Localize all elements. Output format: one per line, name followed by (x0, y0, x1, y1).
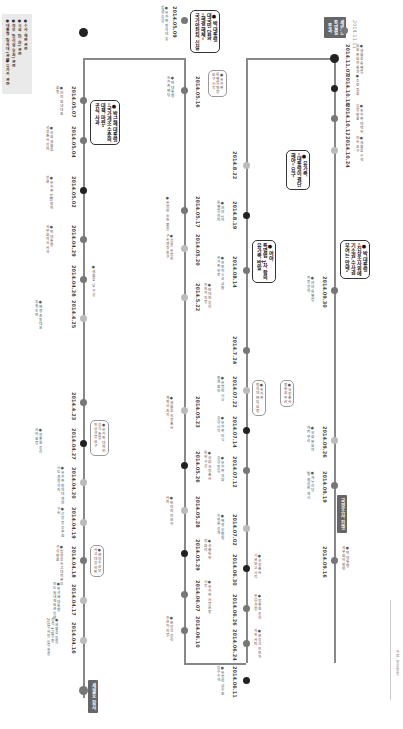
timeline-dot (243, 605, 250, 612)
timeline-dot (80, 557, 87, 564)
timeline-dot (181, 462, 188, 469)
timeline-dot (331, 287, 338, 294)
event-note: ● 여야 원내대표 회동 (55, 86, 63, 116)
event-date: 2014.07.12 (232, 456, 238, 488)
middle-tag: 국정조사 진행 (337, 495, 347, 533)
event-date: 2014.10.24 (345, 136, 351, 168)
event-date: 2014.09.26 (322, 426, 328, 458)
event-date: 2014.05.29 (195, 539, 201, 571)
event-date: 2014.05.26 (195, 451, 201, 483)
timeline-dot (243, 525, 250, 532)
timeline-dot (181, 507, 188, 514)
event-box: ● 유가족 대책위 공식 출범 진상규명 요구 (90, 420, 109, 456)
event-note: ● 해경 상황실 녹취록 공개 (216, 514, 224, 540)
timeline-dot (80, 637, 87, 644)
event-box: ● 박근혜 대통령 "국가개조 수준의 대책 마련" 공식 사과 (90, 100, 120, 145)
timeline-dot (79, 686, 88, 695)
timeline-dot (80, 276, 87, 283)
timeline-dot (80, 97, 87, 104)
event-date: 2014.08.14 (232, 256, 238, 288)
legend-item: ● 수사·재판 관련 (23, 18, 28, 51)
event-date: 2014.06.30 (232, 554, 238, 586)
event-note: ● 국회 세월호 국정조사 합의 (45, 126, 53, 152)
timeline-dot (181, 87, 188, 94)
event-date: 2014.04.19 (71, 507, 77, 539)
event-date: 2014.09.19 (322, 471, 328, 503)
legend: ● 대통령 (청와대) 관련 ● 정부 (총리실·부처) 관련 ● 국회 (여·… (2, 14, 32, 94)
event-date: 2014.05.02 (71, 176, 77, 208)
event-date: 2014.09.16 (322, 546, 328, 578)
event-note: ● 프란치스코 교황 유가족 위로 (216, 256, 224, 290)
event-date: 2014.5.22 (195, 283, 201, 311)
event-date: 2014.10.12 (345, 104, 351, 136)
timeline-dot (331, 482, 338, 489)
event-date: 2014.05.09 (172, 6, 178, 38)
event-note: ● 박 대통령 유가족 면담 (166, 76, 174, 98)
event-box: ● 여야 특별법 1차 합의 유가족 반발 (252, 240, 276, 283)
event-date: 2014.09.30 (322, 276, 328, 308)
event-date: 2014.07.14 (232, 416, 238, 448)
event-date: 2014.06.10 (195, 616, 201, 648)
timeline-dot (243, 387, 250, 394)
legend-item: ● 국회 (여·야) 관련 (17, 18, 22, 56)
event-box: ● 유가족 특별법 제정 요구 시작 (208, 70, 227, 97)
event-box: ● 유가족 청와대 면담 요청 (252, 380, 266, 416)
timeline-dot (181, 550, 188, 557)
event-date: 2014.05.07 (71, 86, 77, 118)
event-note: ● 안대희 후보자 사퇴 (165, 496, 173, 526)
event-note: ● 세월호 수색 지속 요구 (355, 136, 363, 162)
event-note: ● 세월호 특별법 국회 본회의 통과 (355, 44, 363, 74)
legend-item: ● 유가족 관련 (5, 58, 10, 86)
event-note: ● 유병언 소환 불응 (165, 196, 169, 231)
timeline-dot (80, 137, 87, 144)
timeline-dot (80, 519, 87, 526)
event-note: ● 유가족 KBS 항의 방문 (45, 176, 53, 210)
timeline-dot (181, 17, 188, 24)
event-date: 2014.04.16 (71, 622, 77, 654)
event-note: ● 유가족 청와대 앞 밤샘 농성 (160, 6, 168, 41)
event-date: 2014.7.24 (232, 336, 238, 364)
timeline-dot (181, 245, 188, 252)
event-date: 2014.8.19 (232, 201, 238, 229)
event-note: ● 박 대통령 국무회의서 사과 (45, 225, 53, 254)
source-label: 자료: 언론종합 (395, 650, 400, 676)
event-note: ● 국정조사 기관보고 시작 (253, 554, 261, 579)
event-date: 2014.10.18 (345, 74, 351, 106)
timeline-dot (243, 347, 250, 354)
timeline-dot (243, 467, 250, 474)
timeline-dot (331, 115, 338, 122)
event-note: ● 세월호 국정조사 계획서 처리 (165, 396, 173, 430)
event-date: 2014.05.20 (195, 234, 201, 266)
timeline-dot (181, 627, 188, 634)
event-date: 2014.04.17 (71, 584, 77, 616)
timeline-connector (184, 663, 246, 665)
event-date: 2014.05.28 (195, 496, 201, 528)
timeline-dot (243, 267, 250, 274)
timeline-connector (246, 58, 334, 60)
timeline-dot (341, 27, 348, 34)
event-note: ● 국회 본회의 개최 무산 (306, 426, 314, 452)
event-date: 2014.06.07 (195, 580, 201, 612)
timeline-dot (181, 207, 188, 214)
event-date: 2014.07.22 (232, 376, 238, 408)
legend-item: ● 대통령 (청와대) 관련 (5, 18, 10, 62)
event-date: 2014.04.28 (71, 265, 77, 297)
event-note: ● 유병언 금수원 압수수색 (216, 666, 224, 696)
timeline-dot (181, 407, 188, 414)
event-note: ● 세월호 TF 구성 (91, 265, 95, 297)
event-note: ● 유가족 국회 농성 돌입 (216, 456, 224, 482)
timeline-dot (331, 147, 338, 154)
event-note: ● 정홍원 총리 사의 표명 (34, 428, 42, 454)
timeline-dot (181, 294, 188, 301)
event-date: 2014.05.04 (71, 126, 77, 158)
timeline-dot (80, 187, 87, 194)
event-date: 2014.06.11 (232, 666, 238, 698)
timeline-dot (80, 236, 87, 243)
timeline-dot (181, 591, 188, 598)
event-date: 2014.05.17 (195, 196, 201, 228)
legend-item: ● 정부 (총리실·부처) 관련 (11, 18, 16, 68)
event-date: 2014.05.23 (195, 396, 201, 428)
event-box: ● 박 대통령 대국민 담화 "해경 해체" 국가안전처 신설 (190, 10, 220, 53)
event-date: 2014.4.25 (71, 300, 77, 328)
event-date: 2014.04.18 (71, 546, 77, 578)
